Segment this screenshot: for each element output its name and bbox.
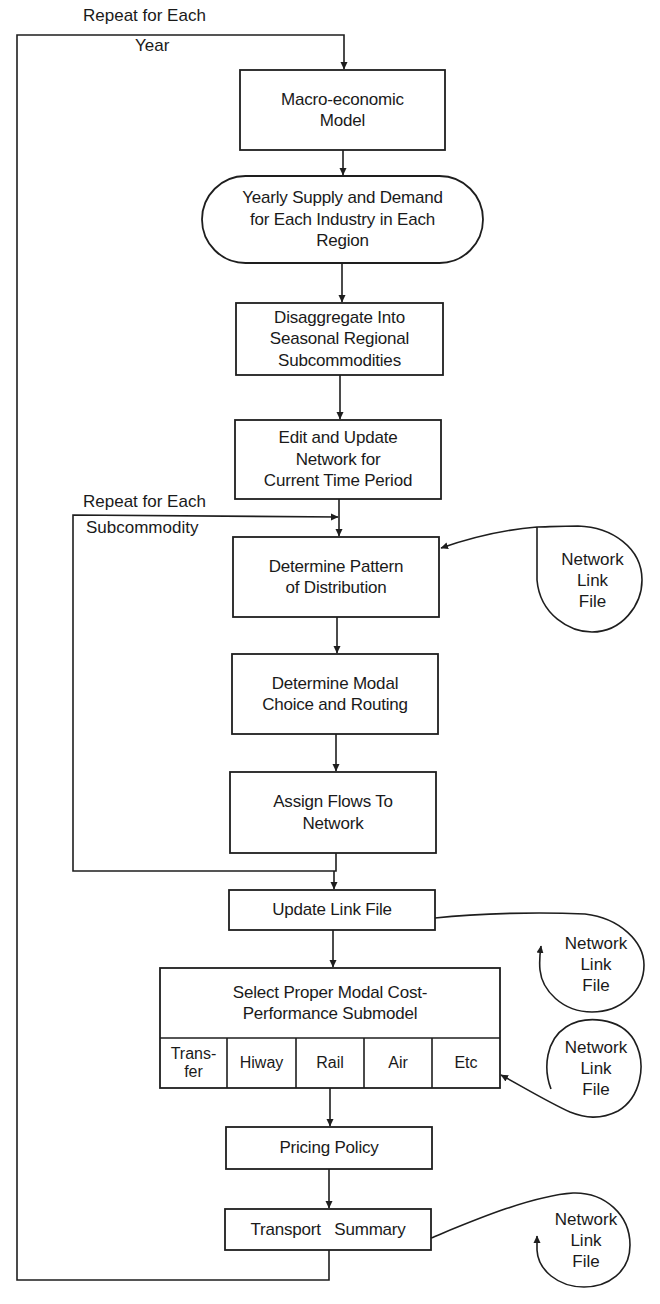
text-line: Network (561, 549, 623, 570)
network-link-file-label-3: Network Link File (548, 1028, 644, 1108)
text-line: Pricing Policy (279, 1137, 378, 1159)
network-link-file-label-1: Network Link File (545, 540, 640, 620)
edit-network-label: Edit and Update Network for Current Time… (235, 420, 441, 499)
transport-summary-label: Transport Summary (225, 1209, 431, 1250)
text-line: Trans- (171, 1045, 217, 1063)
text-line: fer (184, 1063, 203, 1081)
text-line: for Each Industry in Each (250, 209, 435, 231)
text-line: File (582, 1079, 609, 1100)
text-line: Link (570, 1230, 601, 1251)
text-line: File (572, 1251, 599, 1272)
text-line: Network (565, 1037, 627, 1058)
text-line: Hiway (240, 1054, 284, 1072)
text-line: Yearly Supply and Demand (242, 187, 443, 209)
supply-demand-label: Yearly Supply and Demand for Each Indust… (202, 176, 483, 263)
text-line: Link (577, 570, 608, 591)
text-line: Edit and Update (279, 427, 398, 449)
text-line: Link (580, 1058, 611, 1079)
text-line: Air (388, 1054, 408, 1072)
macro-economic-model-label: Macro-economic Model (240, 70, 445, 150)
network-link-file-label-4: Network Link File (538, 1200, 634, 1280)
text-line: Update Link File (272, 899, 392, 921)
text-line: Rail (316, 1054, 344, 1072)
text-line: Network (565, 933, 627, 954)
assign-flows-label: Assign Flows To Network (230, 772, 436, 853)
submodel-cell-etc: Etc (432, 1038, 500, 1088)
disaggregate-label: Disaggregate Into Seasonal Regional Subc… (236, 303, 443, 375)
outer-loop-label-line2: Year (135, 36, 169, 56)
text-line: Choice and Routing (262, 694, 408, 716)
modal-choice-label: Determine Modal Choice and Routing (232, 654, 438, 734)
inner-loop-label: Repeat for Each (83, 492, 206, 512)
text-line: File (582, 975, 609, 996)
inner-loop-label-line1: Repeat for Each (83, 492, 206, 512)
text-line: Performance Submodel (243, 1003, 418, 1025)
text-line: Link (580, 954, 611, 975)
network-link-file-label-2: Network Link File (548, 924, 644, 1004)
text-line: Transport Summary (250, 1219, 405, 1241)
submodel-cell-hiway: Hiway (227, 1038, 296, 1088)
select-submodel-label: Select Proper Modal Cost- Performance Su… (160, 968, 500, 1038)
text-line: Network (303, 813, 364, 835)
text-line: Subcommodities (278, 350, 401, 372)
submodel-cell-air: Air (364, 1038, 432, 1088)
text-line: Macro-economic (281, 89, 404, 111)
text-line: Network for (296, 449, 381, 471)
text-line: Model (320, 110, 365, 132)
text-line: Seasonal Regional (270, 328, 409, 350)
inner-loop-label-subcommodity: Subcommodity (86, 518, 198, 538)
text-line: of Distribution (286, 577, 387, 599)
submodel-cell-rail: Rail (296, 1038, 364, 1088)
text-line: Current Time Period (264, 470, 412, 492)
outer-loop-label-line1: Repeat for Each (83, 6, 206, 26)
outer-loop-label-year: Year (135, 36, 169, 56)
submodel-cell-transfer: Trans- fer (160, 1038, 227, 1088)
text-line: Disaggregate Into (274, 307, 405, 329)
outer-loop-label: Repeat for Each (83, 6, 206, 26)
text-line: Assign Flows To (273, 791, 393, 813)
pricing-policy-label: Pricing Policy (226, 1127, 432, 1169)
text-line: Region (316, 230, 369, 252)
text-line: Etc (454, 1054, 477, 1072)
distribution-pattern-label: Determine Pattern of Distribution (233, 537, 439, 617)
update-link-file-label: Update Link File (229, 890, 435, 930)
inner-loop-label-line2: Subcommodity (86, 518, 198, 538)
text-line: Network (555, 1209, 617, 1230)
text-line: Determine Pattern (269, 556, 404, 578)
text-line: Determine Modal (272, 673, 398, 695)
text-line: Select Proper Modal Cost- (233, 982, 427, 1004)
text-line: File (579, 591, 606, 612)
